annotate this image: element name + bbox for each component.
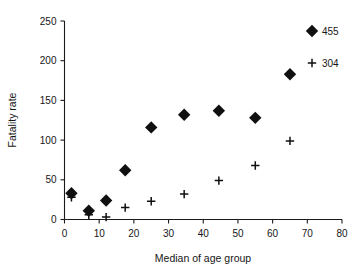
y-tick-label: 150 (40, 95, 57, 106)
data-point-diamond (213, 105, 225, 117)
x-tick-label: 80 (336, 228, 348, 239)
data-point-plus (180, 190, 188, 198)
x-tick-label: 60 (267, 228, 279, 239)
data-point-plus (102, 213, 110, 221)
data-series-layer (65, 68, 296, 221)
x-tick-label: 30 (163, 228, 175, 239)
data-point-plus (121, 203, 129, 211)
data-point-diamond (178, 108, 190, 120)
legend-label-455: 455 (322, 26, 339, 37)
x-tick-label: 50 (232, 228, 244, 239)
x-tick-label: 0 (62, 228, 68, 239)
y-tick-label: 200 (40, 55, 57, 66)
data-point-diamond (100, 194, 112, 206)
x-tick-label: 70 (302, 228, 314, 239)
data-point-plus (286, 137, 294, 145)
data-point-diamond (284, 68, 296, 80)
y-tick-label: 0 (51, 214, 57, 225)
data-point-plus (147, 197, 155, 205)
x-tick-label: 10 (94, 228, 106, 239)
data-point-plus (215, 176, 223, 184)
y-tick-label: 100 (40, 135, 57, 146)
data-point-diamond (249, 112, 261, 124)
data-point-plus (251, 161, 259, 169)
data-point-diamond (119, 164, 131, 176)
y-axis-ticks (61, 21, 65, 220)
x-axis-title: Median of age group (155, 252, 251, 264)
y-tick-label: 50 (45, 174, 57, 185)
y-axis-title: Fatality rate (6, 92, 18, 147)
x-axis-tick-labels: 01020304050607080 (62, 228, 348, 239)
y-axis-tick-labels: 050100150200250 (40, 16, 57, 226)
legend-label-304: 304 (322, 58, 339, 69)
scatter-plot: 050100150200250 01020304050607080 Median… (0, 0, 356, 271)
data-point-diamond (145, 121, 157, 133)
y-tick-label: 250 (40, 16, 57, 27)
x-tick-label: 20 (128, 228, 140, 239)
chart-legend: 455304 (306, 25, 339, 69)
data-point-diamond (306, 25, 318, 37)
data-point-plus (308, 59, 316, 67)
x-tick-label: 40 (198, 228, 210, 239)
series-304 (67, 137, 294, 222)
chart-page: 050100150200250 01020304050607080 Median… (0, 0, 356, 271)
